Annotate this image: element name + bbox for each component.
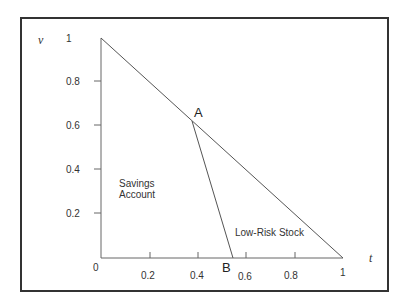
y-axis-label: v bbox=[38, 33, 44, 47]
region-label-low-risk-stock: Low-Risk Stock bbox=[235, 227, 305, 238]
y-tick-label: 0.2 bbox=[66, 208, 80, 219]
x-tick-label: 0.6 bbox=[238, 271, 252, 282]
y-tick-label: 0.8 bbox=[66, 76, 80, 87]
y-ticks bbox=[94, 81, 101, 213]
chart: 1 0.8 0.6 0.4 0.2 0 0.2 0.4 0.6 0.8 1 v … bbox=[0, 0, 409, 305]
x-axis-label: t bbox=[369, 251, 373, 265]
x-tick-label: 0.8 bbox=[284, 270, 298, 281]
point-label-a: A bbox=[194, 105, 203, 120]
y-tick-label: 0.6 bbox=[66, 120, 80, 131]
segment-a-b bbox=[192, 121, 233, 258]
y-tick-label: 1 bbox=[66, 33, 72, 44]
x-tick-label: 0.4 bbox=[190, 270, 204, 281]
region-label-savings: Savings bbox=[119, 178, 155, 189]
point-label-b: B bbox=[222, 260, 231, 275]
x-ticks bbox=[150, 252, 295, 258]
x-tick-label: 0.2 bbox=[141, 270, 155, 281]
boundary-line bbox=[101, 38, 343, 258]
region-label-savings: Account bbox=[119, 189, 155, 200]
x-tick-label: 0 bbox=[93, 262, 99, 273]
x-tick-label: 1 bbox=[340, 267, 346, 278]
y-tick-label: 0.4 bbox=[66, 164, 80, 175]
